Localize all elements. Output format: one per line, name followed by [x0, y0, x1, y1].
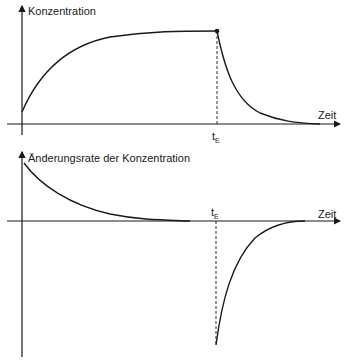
bottom-curve-negative: [216, 221, 305, 345]
top-curve-rise: [22, 31, 217, 112]
bottom-chart: [7, 152, 340, 357]
bottom-y-axis-label: Änderungsrate der Konzentration: [28, 153, 190, 164]
top-curve-decay: [217, 31, 320, 124]
charts-canvas: [0, 0, 344, 361]
top-x-axis-label: Zeit: [318, 110, 336, 121]
top-y-axis-label: Konzentration: [28, 6, 96, 17]
tE-subscript: E: [215, 137, 220, 144]
tE-subscript: E: [214, 213, 219, 220]
bottom-curve-positive: [24, 163, 190, 221]
top-tE-label: tE: [212, 131, 220, 142]
bottom-tE-label: tE: [211, 207, 219, 218]
bottom-x-axis-label: Zeit: [318, 209, 336, 220]
top-chart: [7, 6, 340, 135]
